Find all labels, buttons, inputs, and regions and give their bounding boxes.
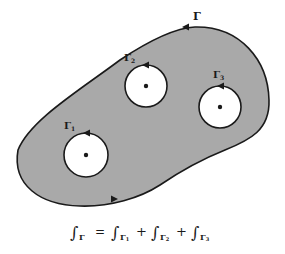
equation-term1-subscript: Γ1 bbox=[120, 232, 129, 242]
hole-gamma1-center-dot bbox=[84, 153, 88, 157]
outer-contour-label: Γ bbox=[193, 10, 201, 23]
equation-term2-integral: ∫ bbox=[151, 223, 159, 242]
equation-term2-subscript: Γ2 bbox=[160, 232, 170, 242]
equation-lhs-subscript: Γ bbox=[79, 232, 85, 242]
equation-lhs-integral: ∫ bbox=[70, 223, 78, 242]
multiply-connected-region-diagram: Γ Γ2 Γ3 Γ1 ∫ Γ = ∫ Γ1 + ∫ Γ2 + ∫ Γ3 bbox=[0, 0, 285, 254]
equation-equals: = bbox=[95, 225, 105, 239]
hole-gamma3-center-dot bbox=[218, 105, 222, 109]
equation-term3-subscript: Γ3 bbox=[200, 232, 210, 242]
equation-term1-integral: ∫ bbox=[111, 223, 119, 242]
hole-gamma2-center-dot bbox=[144, 84, 148, 88]
equation-plus-1: + bbox=[136, 224, 147, 239]
equation-term3-integral: ∫ bbox=[191, 223, 199, 242]
equation: ∫ Γ = ∫ Γ1 + ∫ Γ2 + ∫ Γ3 bbox=[70, 223, 210, 242]
equation-plus-2: + bbox=[176, 224, 187, 239]
